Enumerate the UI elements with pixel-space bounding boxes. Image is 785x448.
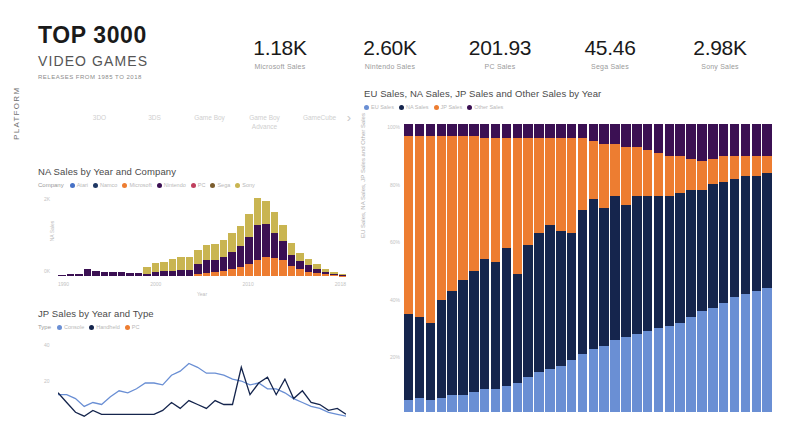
bar-segment[interactable]: [741, 294, 750, 412]
bar-segment[interactable]: [143, 267, 151, 274]
platform-slicer-item[interactable]: GameCube: [292, 104, 347, 132]
bar-segment[interactable]: [708, 159, 717, 185]
table-row[interactable]: [545, 124, 554, 412]
bar-segment[interactable]: [480, 124, 489, 138]
legend-item[interactable]: Sega: [210, 182, 230, 188]
bar-segment[interactable]: [545, 124, 554, 138]
bar-segment[interactable]: [177, 270, 185, 276]
bar-segment[interactable]: [109, 272, 117, 276]
legend-item[interactable]: Console: [57, 324, 84, 330]
bar-segment[interactable]: [534, 138, 543, 233]
bar-segment[interactable]: [567, 360, 576, 412]
bar-segment[interactable]: [675, 156, 684, 193]
table-row[interactable]: [84, 269, 92, 276]
table-row[interactable]: [534, 124, 543, 412]
bar-segment[interactable]: [271, 258, 279, 276]
line-series[interactable]: [58, 363, 346, 416]
bar-segment[interactable]: [730, 124, 739, 156]
legend-item[interactable]: Sony: [235, 182, 255, 188]
table-row[interactable]: [58, 275, 66, 276]
table-row[interactable]: [143, 267, 151, 276]
bar-segment[interactable]: [437, 136, 446, 300]
bar-segment[interactable]: [67, 274, 75, 276]
table-row[interactable]: [632, 124, 641, 412]
bar-segment[interactable]: [101, 272, 109, 276]
bar-segment[interactable]: [447, 124, 456, 136]
bar-segment[interactable]: [589, 349, 598, 412]
table-row[interactable]: [254, 198, 262, 276]
bar-segment[interactable]: [160, 262, 168, 272]
legend-item[interactable]: JP Sales: [434, 104, 463, 110]
bar-segment[interactable]: [534, 124, 543, 138]
bar-segment[interactable]: [599, 124, 608, 144]
table-row[interactable]: [92, 271, 100, 276]
table-row[interactable]: [220, 240, 228, 276]
table-row[interactable]: [741, 124, 750, 412]
bar-segment[interactable]: [708, 124, 717, 159]
bar-segment[interactable]: [665, 326, 674, 412]
bar-segment[interactable]: [599, 208, 608, 346]
bar-segment[interactable]: [762, 124, 771, 156]
bar-segment[interactable]: [237, 267, 245, 276]
bar-segment[interactable]: [437, 398, 446, 412]
bar-segment[interactable]: [135, 273, 143, 276]
bar-segment[interactable]: [480, 389, 489, 412]
na-sales-legend[interactable]: Company AtariNamcoMicrosoftNintendoPCSeg…: [38, 182, 348, 188]
table-row[interactable]: [305, 259, 313, 276]
legend-item[interactable]: Microsoft: [122, 182, 151, 188]
bar-segment[interactable]: [228, 233, 236, 252]
table-row[interactable]: [186, 257, 194, 276]
bar-segment[interactable]: [632, 196, 641, 334]
bar-segment[interactable]: [643, 331, 652, 412]
bar-segment[interactable]: [426, 136, 435, 323]
bar-segment[interactable]: [491, 262, 500, 389]
bar-segment[interactable]: [426, 400, 435, 412]
bar-segment[interactable]: [545, 225, 554, 369]
chevron-right-icon[interactable]: ›: [347, 110, 351, 125]
bar-segment[interactable]: [567, 124, 576, 138]
bar-segment[interactable]: [415, 317, 424, 398]
bar-segment[interactable]: [741, 156, 750, 176]
bar-segment[interactable]: [169, 271, 177, 276]
bar-segment[interactable]: [654, 153, 663, 196]
bar-segment[interactable]: [654, 196, 663, 328]
bar-segment[interactable]: [404, 136, 413, 315]
bar-segment[interactable]: [632, 147, 641, 196]
jp-sales-lines[interactable]: [58, 338, 346, 426]
bar-segment[interactable]: [126, 273, 134, 277]
bar-segment[interactable]: [262, 201, 270, 224]
table-row[interactable]: [447, 124, 456, 412]
table-row[interactable]: [458, 124, 467, 412]
bar-segment[interactable]: [502, 248, 511, 386]
bar-segment[interactable]: [610, 196, 619, 340]
table-row[interactable]: [610, 124, 619, 412]
bar-segment[interactable]: [480, 138, 489, 259]
bar-segment[interactable]: [513, 383, 522, 412]
bar-segment[interactable]: [313, 273, 321, 276]
bar-segment[interactable]: [665, 196, 674, 326]
table-row[interactable]: [643, 124, 652, 412]
bar-segment[interactable]: [730, 179, 739, 297]
bar-segment[interactable]: [279, 241, 287, 259]
bar-segment[interactable]: [437, 124, 446, 136]
table-row[interactable]: [296, 253, 304, 276]
bar-segment[interactable]: [404, 314, 413, 400]
table-row[interactable]: [262, 201, 270, 276]
bar-segment[interactable]: [719, 303, 728, 412]
bar-segment[interactable]: [621, 205, 630, 337]
bar-segment[interactable]: [567, 233, 576, 360]
bar-segment[interactable]: [447, 136, 456, 292]
bar-segment[interactable]: [708, 184, 717, 308]
table-row[interactable]: [203, 245, 211, 276]
platform-slicer[interactable]: PLATFORM 3DO3DSGame BoyGame Boy AdvanceG…: [10, 96, 355, 142]
legend-item[interactable]: Other Sales: [467, 104, 503, 110]
bar-segment[interactable]: [523, 245, 532, 377]
bar-segment[interactable]: [160, 271, 168, 276]
bar-segment[interactable]: [545, 138, 554, 224]
bar-segment[interactable]: [203, 260, 211, 273]
table-row[interactable]: [469, 124, 478, 412]
bar-segment[interactable]: [237, 246, 245, 266]
bar-segment[interactable]: [502, 138, 511, 247]
bar-segment[interactable]: [567, 138, 576, 233]
region-sales-bars[interactable]: [404, 124, 772, 412]
